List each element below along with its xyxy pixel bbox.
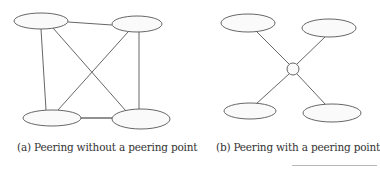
edge-a-tr-bl [58, 32, 128, 110]
edge-b-tl-hub [256, 31, 289, 64]
caption-figure-a: (a) Peering without a peering point [17, 141, 197, 153]
edge-a-tl-tr [68, 22, 112, 25]
edge-a-tl-bl [41, 29, 46, 110]
edge-b-bl-hub [256, 74, 289, 104]
edge-a-tl-br [53, 28, 126, 111]
node-b-top-left [221, 14, 275, 32]
figure-a-nodes [14, 13, 170, 129]
node-a-bottom-right [112, 109, 170, 129]
divider-line [292, 165, 377, 166]
peering-point-hub [287, 63, 299, 75]
node-a-bottom-left [23, 110, 81, 126]
figure-a-mesh [41, 22, 139, 118]
edge-b-tr-hub [297, 37, 325, 64]
node-b-top-right [302, 19, 356, 37]
edge-b-br-hub [297, 74, 326, 105]
figure-b-nodes [221, 14, 361, 122]
node-b-bottom-left [224, 103, 276, 119]
node-b-bottom-right [303, 104, 361, 122]
node-a-top-right [112, 16, 162, 32]
caption-figure-b: (b) Peering with a peering point [216, 141, 380, 153]
node-a-top-left [14, 13, 68, 29]
